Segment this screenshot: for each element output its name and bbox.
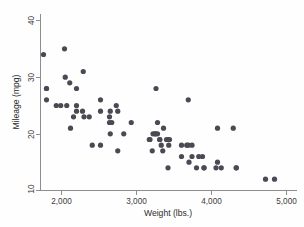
data-point: [160, 148, 165, 153]
data-point: [109, 120, 114, 125]
data-point: [186, 143, 191, 148]
data-point: [189, 154, 194, 159]
data-point: [44, 86, 49, 91]
data-point: [166, 143, 171, 148]
data-point: [201, 165, 206, 170]
y-tick-label-10: 10: [27, 184, 36, 194]
x-tick-label-4000: 4,000: [201, 197, 222, 206]
plot-canvas: 40 30 20 10 Mileage (mpg) 2,000 3,000 4,…: [0, 0, 304, 227]
data-point: [155, 120, 160, 125]
data-point: [194, 165, 199, 170]
data-point: [129, 120, 134, 125]
data-point: [98, 97, 103, 102]
data-point: [44, 97, 49, 102]
data-point: [219, 165, 224, 170]
data-point: [165, 137, 170, 142]
y-tick-label-30: 30: [27, 73, 36, 83]
x-tick-label-3000: 3,000: [126, 197, 147, 206]
data-point: [74, 109, 79, 114]
data-point: [81, 69, 86, 74]
data-point: [80, 109, 85, 114]
data-point: [62, 46, 67, 51]
data-point: [115, 109, 120, 114]
plot-background: [0, 0, 304, 227]
data-point: [231, 126, 236, 131]
data-point: [213, 165, 218, 170]
data-point: [263, 177, 268, 182]
data-point: [186, 97, 191, 102]
data-point: [108, 109, 113, 114]
data-point: [41, 52, 46, 57]
data-point: [157, 137, 162, 142]
data-point: [196, 154, 201, 159]
y-axis-title: Mileage (mpg): [11, 74, 21, 129]
y-tick-label-20: 20: [27, 130, 36, 140]
data-point: [161, 126, 166, 131]
x-tick-label-2000: 2,000: [51, 197, 72, 206]
data-point: [179, 154, 184, 159]
x-tick-label-5000: 5,000: [276, 197, 297, 206]
data-point: [150, 148, 155, 153]
data-point: [68, 126, 73, 131]
y-tick-label-40: 40: [27, 16, 36, 26]
data-point: [186, 160, 191, 165]
data-point: [107, 114, 112, 119]
data-point: [272, 177, 277, 182]
data-point: [87, 114, 92, 119]
data-point: [58, 103, 63, 108]
x-axis-title: Weight (lbs.): [144, 208, 192, 218]
data-point: [81, 114, 86, 119]
data-point: [179, 143, 184, 148]
data-point: [215, 160, 220, 165]
data-point: [165, 165, 170, 170]
data-point: [115, 148, 120, 153]
data-point: [64, 103, 69, 108]
data-point: [67, 80, 72, 85]
data-point: [98, 143, 103, 148]
data-point: [54, 103, 59, 108]
data-point: [114, 103, 119, 108]
data-point: [153, 86, 158, 91]
data-point: [71, 114, 76, 119]
data-point: [153, 131, 158, 136]
data-point: [121, 131, 126, 136]
data-point: [147, 137, 152, 142]
data-point: [108, 131, 113, 136]
data-point: [159, 143, 164, 148]
scatter-plot-figure: 40 30 20 10 Mileage (mpg) 2,000 3,000 4,…: [0, 0, 304, 227]
data-point: [98, 109, 103, 114]
data-point: [215, 126, 220, 131]
data-point: [63, 75, 68, 80]
data-point: [90, 143, 95, 148]
data-point: [74, 86, 79, 91]
data-point: [74, 103, 79, 108]
data-point: [234, 165, 239, 170]
